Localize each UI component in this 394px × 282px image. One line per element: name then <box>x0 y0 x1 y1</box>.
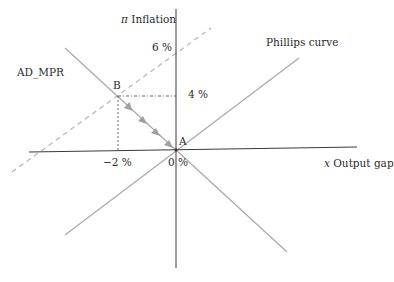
x-symbol: x <box>324 157 330 169</box>
phillips-curve-label: Phillips curve <box>266 37 339 48</box>
point-a-label: A <box>179 136 187 147</box>
tick-label-neg2-percent: −2 % <box>103 157 132 168</box>
x-axis-label: x Output gap <box>324 158 394 169</box>
arrow-icon <box>151 128 160 136</box>
y-axis-label: π Inflation <box>121 14 176 25</box>
pi-symbol: π <box>121 13 128 25</box>
arrow-icon <box>138 116 147 124</box>
point-b-label: B <box>113 80 121 91</box>
tick-label-6-percent: 6 % <box>152 42 172 53</box>
x-axis <box>29 147 357 152</box>
ad-mpr-label: AD_MPR <box>17 67 64 78</box>
point-a-marker <box>175 149 178 152</box>
tick-label-4-percent: 4 % <box>188 89 208 100</box>
arrow-icon <box>164 140 173 148</box>
tick-label-origin: 0 % <box>168 157 188 168</box>
